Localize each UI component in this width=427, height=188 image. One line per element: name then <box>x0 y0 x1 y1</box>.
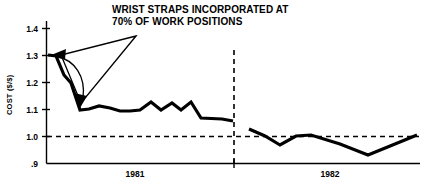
y-tick-label-2: 1.3 <box>26 51 38 61</box>
x-tick-label-1981: 1981 <box>126 169 145 179</box>
y-tick-label-5: 1.0 <box>26 132 38 142</box>
annotation-arrow-to-start <box>61 36 136 103</box>
cost-line-chart: 1.4 1.3 1.2 1.1 1.0 .9 COST ($/$) 1981 1… <box>0 0 427 188</box>
data-line-1982 <box>249 129 417 155</box>
y-tick-label-6: .9 <box>31 159 38 169</box>
y-tick-label-4: 1.1 <box>26 105 38 115</box>
data-line-1981 <box>48 55 233 121</box>
annotation-line-1: WRIST STRAPS INCORPORATED AT <box>112 4 289 15</box>
y-tick-label-3: 1.2 <box>26 78 38 88</box>
chart-figure: 1.4 1.3 1.2 1.1 1.0 .9 COST ($/$) 1981 1… <box>0 0 427 188</box>
y-tick-label-1: 1.4 <box>26 24 38 34</box>
x-tick-label-1982: 1982 <box>321 169 340 179</box>
annotation-line-2: 70% OF WORK POSITIONS <box>112 16 243 27</box>
y-axis-title: COST ($/$) <box>5 74 14 115</box>
